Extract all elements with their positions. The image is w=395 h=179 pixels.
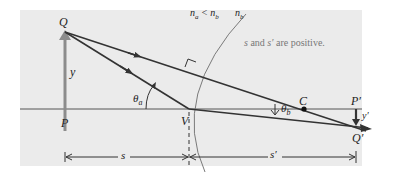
image-arrowhead-icon xyxy=(352,119,360,126)
image-height-label: y′ xyxy=(362,111,369,121)
point-label-v: V xyxy=(181,115,188,127)
point-label-c: C xyxy=(299,95,307,107)
point-label-p: P xyxy=(61,117,68,129)
ray-direction-arrow-1 xyxy=(128,53,138,56)
sign-convention-note: s and s′ are positive. xyxy=(244,37,325,48)
index-nb-label: nb xyxy=(235,8,244,21)
object-distance-label: s xyxy=(121,150,125,161)
point-label-q: Q xyxy=(59,16,68,28)
theta-b-label: θb xyxy=(281,103,290,117)
index-relation-label: na < nb xyxy=(190,8,219,21)
ray-direction-arrow-2 xyxy=(120,66,130,72)
spherical-surface xyxy=(194,14,246,172)
image-distance-label: s′ xyxy=(270,149,277,160)
object-height-label: y xyxy=(70,66,75,78)
theta-a-arc xyxy=(146,85,154,109)
point-label-p-prime: P′ xyxy=(351,95,361,107)
right-angle-marker xyxy=(185,59,196,67)
refracted-ray xyxy=(189,109,368,128)
theta-a-label: θa xyxy=(133,93,142,107)
point-label-q-prime: Q′ xyxy=(352,132,363,144)
